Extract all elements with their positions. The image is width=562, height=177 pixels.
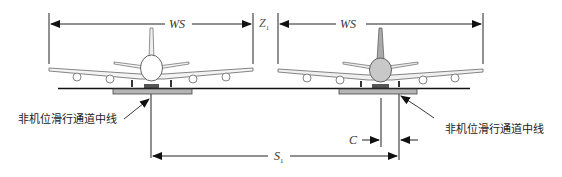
right-pavement: [339, 89, 417, 94]
centerline-separation-label: S1: [272, 150, 286, 165]
left-wingspan-label: WS: [166, 18, 188, 30]
right-centerline-label: 非机位滑行通道中线: [445, 124, 544, 135]
left-centerline-label: 非机位滑行通道中线: [18, 114, 117, 125]
deviation-label: C: [349, 134, 357, 146]
left-aircraft-illustration: [49, 28, 253, 88]
left-label-leader: [124, 99, 149, 119]
right-aircraft-illustration: [278, 28, 483, 88]
wingtip-clearance-label: Z1: [259, 17, 269, 32]
right-label-leader: [401, 96, 434, 118]
right-wingspan-label: WS: [337, 18, 359, 30]
left-pavement: [113, 89, 192, 94]
